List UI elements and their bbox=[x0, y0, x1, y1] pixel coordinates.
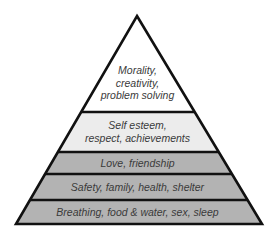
level-1-label: Morality, creativity, problem solving bbox=[0, 64, 275, 102]
level-2-line-2: respect, achievements bbox=[0, 132, 275, 145]
level-1-line-1: Morality, bbox=[0, 64, 275, 77]
level-3-label: Love, friendship bbox=[0, 157, 275, 170]
level-1-line-3: problem solving bbox=[0, 89, 275, 102]
level-1-line-2: creativity, bbox=[0, 77, 275, 90]
level-5-label: Breathing, food & water, sex, sleep bbox=[0, 206, 275, 219]
level-4-label: Safety, family, health, shelter bbox=[0, 181, 275, 194]
level-5-line-1: Breathing, food & water, sex, sleep bbox=[0, 206, 275, 219]
level-3-line-1: Love, friendship bbox=[0, 157, 275, 170]
level-2-line-1: Self esteem, bbox=[0, 119, 275, 132]
level-4-line-1: Safety, family, health, shelter bbox=[0, 181, 275, 194]
level-2-label: Self esteem, respect, achievements bbox=[0, 119, 275, 144]
